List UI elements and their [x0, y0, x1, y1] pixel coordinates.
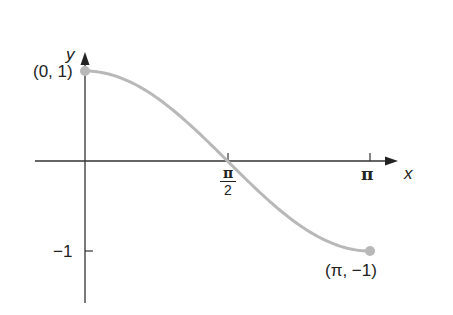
fraction-numerator: π: [220, 166, 236, 180]
x-axis-label: x: [404, 165, 413, 182]
start-point-label: (0, 1): [33, 63, 73, 80]
start-point-marker: [80, 66, 90, 76]
end-point-marker: [365, 246, 375, 256]
x-axis-arrow-icon: [385, 157, 398, 166]
y-axis-arrow-icon: [81, 52, 90, 65]
fraction-denominator: 2: [220, 183, 236, 197]
x-tick-label-pi-half: π 2: [220, 166, 236, 197]
x-tick-label-pi: π: [361, 166, 373, 183]
y-axis-label: y: [66, 46, 75, 63]
end-point-label: (π, −1): [325, 262, 377, 279]
y-tick-label-neg-one: −1: [53, 243, 72, 260]
